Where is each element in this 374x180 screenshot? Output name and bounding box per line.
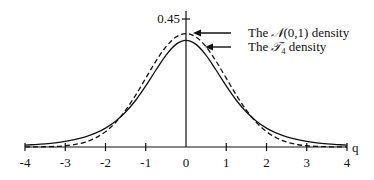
x-tick-label: 2	[263, 155, 270, 170]
x-tick-label: -4	[20, 155, 31, 170]
legend-arrow-normal	[193, 30, 231, 37]
x-tick-label: 0	[183, 155, 190, 170]
x-tick-label: -3	[60, 155, 71, 170]
y-tick-label: 0.45	[157, 11, 180, 26]
arrow-head-icon	[205, 44, 213, 51]
x-tick-label: 4	[344, 155, 351, 170]
legend-label-normal: The 𝒩(0,1) density	[248, 25, 350, 40]
legend: The 𝒩(0,1) density The 𝒯4 density	[193, 25, 350, 56]
y-ticks: 0.45	[157, 11, 190, 26]
x-axis-label: q	[352, 140, 359, 155]
x-tick-label: 1	[223, 155, 230, 170]
x-tick-label: -1	[140, 155, 151, 170]
x-tick-label: 3	[304, 155, 311, 170]
density-chart: -4-3-2-101234 0.45 q The 𝒩(0,1) density …	[0, 0, 374, 180]
x-tick-label: -2	[100, 155, 111, 170]
legend-label-t4: The 𝒯4 density	[248, 39, 327, 56]
arrow-head-icon	[193, 30, 201, 37]
